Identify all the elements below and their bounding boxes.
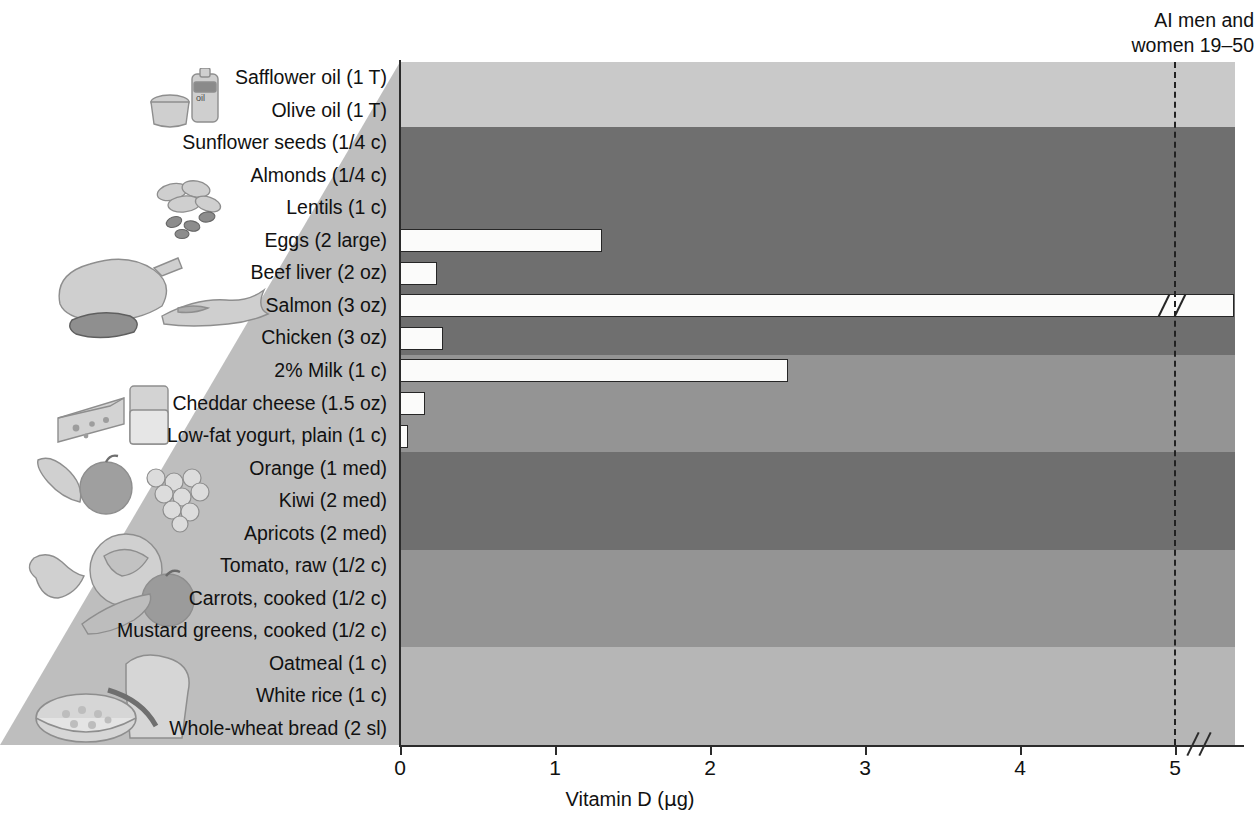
food-group-band-fats-and-oils: [400, 62, 1235, 127]
x-axis-title-tail: g): [677, 788, 695, 810]
bar-2-milk-1-c: [400, 359, 788, 382]
bar-eggs-2-large: [400, 229, 602, 252]
x-tick: [400, 745, 402, 755]
category-label: Low-fat yogurt, plain (1 c): [0, 426, 393, 446]
category-label: Tomato, raw (1/2 c): [0, 556, 393, 576]
category-label: Kiwi (2 med): [0, 491, 393, 511]
category-label: White rice (1 c): [0, 686, 393, 706]
x-axis-break-marks: [1186, 731, 1226, 759]
x-tick: [710, 745, 712, 755]
category-label: Eggs (2 large): [0, 231, 393, 251]
category-label: Lentils (1 c): [0, 198, 393, 218]
x-tick: [1175, 745, 1177, 755]
x-tick: [555, 745, 557, 755]
bar-chicken-3-oz: [400, 327, 443, 350]
category-label: Olive oil (1 T): [0, 101, 393, 121]
category-label: Oatmeal (1 c): [0, 654, 393, 674]
x-tick-label: 5: [1169, 756, 1181, 780]
category-label: Carrots, cooked (1/2 c): [0, 589, 393, 609]
bar-low-fat-yogurt-plain-1-c: [400, 425, 408, 448]
category-label: Whole-wheat bread (2 sl): [0, 719, 393, 739]
x-tick-label: 3: [859, 756, 871, 780]
plot-area: [400, 62, 1235, 745]
x-tick: [865, 745, 867, 755]
figure-caption-ghost: [4, 800, 8, 817]
x-tick-label: 2: [704, 756, 716, 780]
ai-reference-line: [1174, 62, 1176, 745]
food-group-band-vegetables: [400, 550, 1235, 648]
category-label: Beef liver (2 oz): [0, 263, 393, 283]
category-label: Cheddar cheese (1.5 oz): [0, 394, 393, 414]
category-label: 2% Milk (1 c): [0, 361, 393, 381]
x-axis-line: [399, 745, 1244, 747]
x-axis-title: Vitamin D (µg): [0, 787, 1260, 811]
food-group-band-grains: [400, 647, 1235, 745]
bar-salmon-3-oz: [400, 294, 1234, 317]
category-label: Apricots (2 med): [0, 524, 393, 544]
x-tick-label: 0: [394, 756, 406, 780]
food-group-band-fruits: [400, 452, 1235, 550]
x-axis-unit-mu: µ: [664, 787, 677, 811]
category-label: Almonds (1/4 c): [0, 166, 393, 186]
y-axis-line: [399, 60, 401, 747]
ai-annotation-line-2: women 19–50: [1131, 33, 1254, 58]
category-label: Mustard greens, cooked (1/2 c): [0, 621, 393, 641]
category-labels: Safflower oil (1 T)Olive oil (1 T)Sunflo…: [0, 0, 393, 823]
ai-annotation-line-1: AI men and: [1131, 8, 1254, 33]
bar-cheddar-cheese-1-5-oz: [400, 392, 425, 415]
bar-beef-liver-2-oz: [400, 262, 437, 285]
x-tick-label: 1: [549, 756, 561, 780]
category-label: Orange (1 med): [0, 459, 393, 479]
category-label: Chicken (3 oz): [0, 328, 393, 348]
x-tick-label: 4: [1014, 756, 1026, 780]
category-label: Sunflower seeds (1/4 c): [0, 133, 393, 153]
ai-reference-annotation: AI men and women 19–50: [1131, 8, 1254, 58]
vitamin-d-food-sources-chart: oil: [0, 0, 1260, 823]
x-axis-title-text: Vitamin D (: [565, 788, 664, 810]
category-label: Safflower oil (1 T): [0, 68, 393, 88]
x-tick: [1020, 745, 1022, 755]
category-label: Salmon (3 oz): [0, 296, 393, 316]
